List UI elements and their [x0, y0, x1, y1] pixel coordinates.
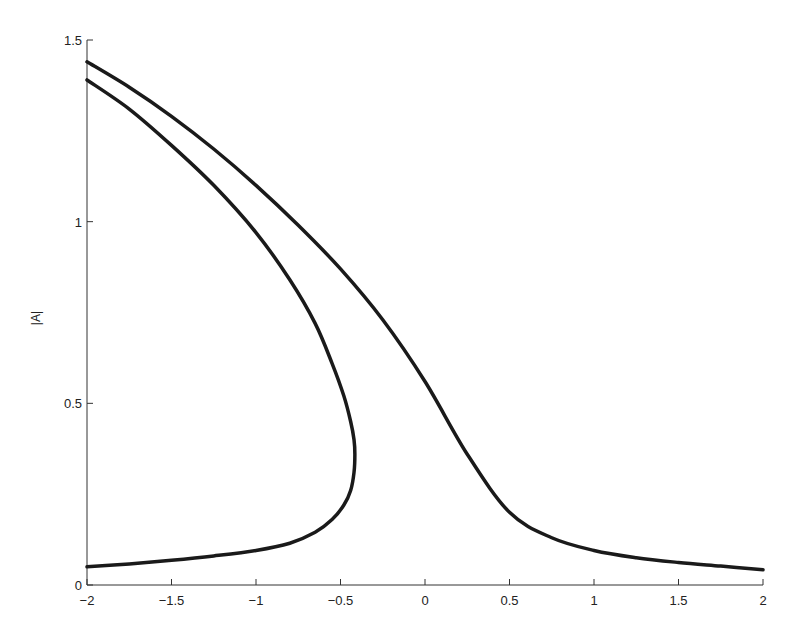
- x-tick-label: −1: [249, 593, 264, 608]
- x-tick-label: −2: [80, 593, 95, 608]
- y-tick-label: 0: [75, 578, 82, 593]
- x-tick-label: −1.5: [159, 593, 185, 608]
- x-tick-label: −0.5: [328, 593, 354, 608]
- y-tick-label: 0.5: [64, 396, 82, 411]
- y-tick-label: 1: [75, 215, 82, 230]
- bifurcation-chart: −2−1.5−1−0.500.511.5200.511.5 |A|: [0, 0, 805, 640]
- x-tick-label: 0: [421, 593, 428, 608]
- x-tick-label: 2: [759, 593, 766, 608]
- axes: −2−1.5−1−0.500.511.5200.511.5: [64, 33, 767, 608]
- x-tick-label: 1: [590, 593, 597, 608]
- plot-area: [87, 62, 763, 570]
- y-tick-label: 1.5: [64, 33, 82, 48]
- x-tick-label: 0.5: [500, 593, 518, 608]
- x-tick-label: 1.5: [669, 593, 687, 608]
- y-axis-label: |A|: [29, 311, 43, 325]
- series-outer-branch: [87, 62, 763, 570]
